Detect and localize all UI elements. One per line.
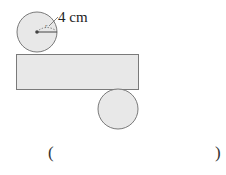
answer-open-paren: ( [48, 144, 54, 161]
center-dot [35, 30, 39, 34]
bottom-base-circle [98, 89, 138, 129]
lateral-rectangle [17, 55, 139, 90]
answer-blank[interactable] [60, 144, 210, 162]
radius-label: 4 cm [58, 10, 88, 25]
answer-close-paren: ) [215, 144, 221, 161]
